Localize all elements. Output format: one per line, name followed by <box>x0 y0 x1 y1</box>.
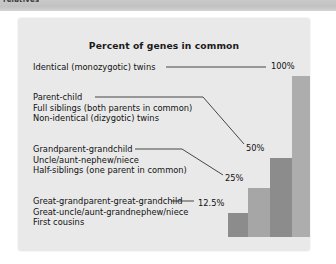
label-group-great-grandparent: Great-grandparent-great-grandchild Great… <box>33 196 188 228</box>
bar-50-percent <box>270 158 292 237</box>
window-header-band: relatives <box>0 0 336 11</box>
label-line: Half-siblings (one parent in common) <box>33 165 187 176</box>
label-group-identical-twins: Identical (monozygotic) twins <box>33 62 155 73</box>
label-line: Grandparent-grandchild <box>33 144 187 155</box>
label-line: Full siblings (both parents in common) <box>33 103 192 114</box>
figure-panel: Percent of genes in common Identical (mo… <box>18 18 310 251</box>
value-label-100-percent: 100% <box>271 61 295 71</box>
label-group-grandparent-grandchild: Grandparent-grandchild Uncle/aunt-nephew… <box>33 144 187 176</box>
value-label-25-percent: 25% <box>225 173 243 183</box>
bar-100-percent <box>292 76 310 237</box>
label-line: Uncle/aunt-nephew/niece <box>33 155 187 166</box>
bar-12-5-percent <box>228 213 248 237</box>
label-group-parent-child: Parent-child Full siblings (both parents… <box>33 92 192 124</box>
label-line: Great-grandparent-great-grandchild <box>33 196 188 207</box>
value-label-50-percent: 50% <box>246 143 264 153</box>
bar-25-percent <box>248 188 270 237</box>
value-label-12-5-percent: 12.5% <box>198 198 224 208</box>
label-line: First cousins <box>33 217 188 228</box>
label-line: Identical (monozygotic) twins <box>33 62 155 73</box>
label-line: Non-identical (dizygotic) twins <box>33 113 192 124</box>
label-line: Great-uncle/aunt-grandnephew/niece <box>33 207 188 218</box>
label-line: Parent-child <box>33 92 192 103</box>
header-title: relatives <box>3 0 39 4</box>
